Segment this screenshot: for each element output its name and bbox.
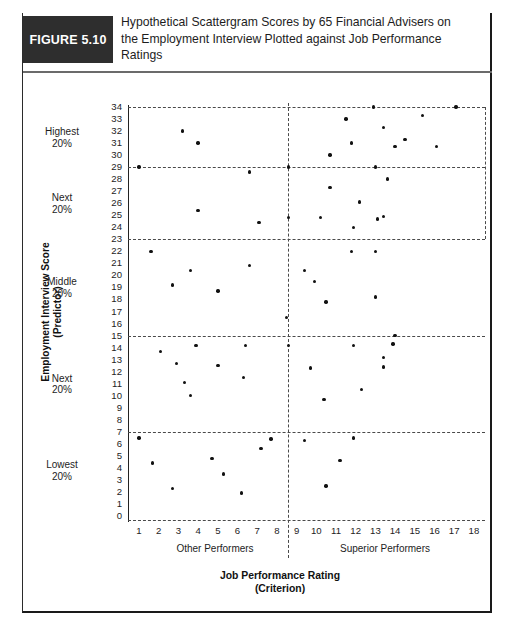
data-point bbox=[196, 209, 199, 212]
figure-title: Hypothetical Scattergram Scores by 65 Fi… bbox=[121, 14, 471, 64]
figure-header: FIGURE 5.10 Hypothetical Scattergram Sco… bbox=[23, 16, 470, 66]
band-label-5: Lowest20% bbox=[27, 459, 97, 482]
data-point bbox=[338, 459, 341, 462]
y-tick-label: 31 bbox=[100, 138, 122, 148]
y-tick-label: 3 bbox=[100, 475, 122, 485]
y-tick-label: 1 bbox=[100, 499, 122, 509]
y-tick-label: 8 bbox=[100, 415, 122, 425]
y-tick-label: 0 bbox=[100, 511, 122, 521]
x-tick-label: 12 bbox=[346, 525, 366, 536]
header-divider bbox=[23, 71, 492, 73]
y-tick-label: 16 bbox=[100, 319, 122, 329]
data-point bbox=[372, 105, 375, 108]
page-frame bbox=[22, 13, 492, 613]
data-point bbox=[324, 300, 327, 303]
y-tick-label: 6 bbox=[100, 439, 122, 449]
data-point bbox=[393, 334, 396, 337]
data-point bbox=[303, 439, 306, 442]
data-point bbox=[386, 177, 389, 180]
y-tick-label: 7 bbox=[100, 427, 122, 437]
band-label-line1: Lowest bbox=[27, 459, 97, 471]
y-tick-label: 19 bbox=[100, 282, 122, 292]
data-point bbox=[454, 105, 457, 108]
data-point bbox=[309, 366, 312, 369]
figure-number-badge: FIGURE 5.10 bbox=[23, 16, 113, 63]
data-point bbox=[137, 436, 140, 439]
band-label-line2: 20% bbox=[27, 288, 97, 300]
band-divider-line bbox=[128, 336, 485, 337]
plot-right-edge-line bbox=[485, 107, 486, 239]
data-point bbox=[328, 153, 331, 156]
band-divider-line bbox=[128, 432, 485, 433]
x-tick-label: 4 bbox=[188, 525, 208, 536]
data-point bbox=[382, 365, 385, 368]
band-label-2: Next20% bbox=[27, 192, 97, 215]
data-point bbox=[240, 491, 243, 494]
band-divider-line bbox=[128, 239, 485, 240]
data-point bbox=[149, 250, 152, 253]
y-tick-label: 5 bbox=[100, 451, 122, 461]
band-label-line2: 20% bbox=[27, 204, 97, 216]
y-tick-label: 11 bbox=[100, 379, 122, 389]
band-label-line2: 20% bbox=[27, 138, 97, 150]
data-point bbox=[194, 344, 197, 347]
y-tick-label: 12 bbox=[100, 367, 122, 377]
y-tick-label: 33 bbox=[100, 114, 122, 124]
data-point bbox=[322, 398, 325, 401]
band-label-line1: Highest bbox=[27, 126, 97, 138]
band-label-line1: Next bbox=[27, 373, 97, 385]
x-tick-label: 17 bbox=[444, 525, 464, 536]
data-point bbox=[210, 457, 213, 460]
data-point bbox=[181, 129, 184, 132]
data-point bbox=[352, 436, 355, 439]
y-tick-label: 28 bbox=[100, 174, 122, 184]
y-tick-label: 30 bbox=[100, 150, 122, 160]
x-tick-label: 11 bbox=[326, 525, 346, 536]
band-divider-line bbox=[128, 107, 485, 108]
band-label-1: Highest20% bbox=[27, 126, 97, 149]
x-tick-label: 10 bbox=[306, 525, 326, 536]
y-tick-label: 22 bbox=[100, 246, 122, 256]
y-tick-label: 26 bbox=[100, 198, 122, 208]
x-tick-label: 5 bbox=[208, 525, 228, 536]
data-point bbox=[269, 437, 272, 440]
data-point bbox=[358, 200, 361, 203]
x-tick-label: 15 bbox=[405, 525, 425, 536]
y-tick-label: 10 bbox=[100, 391, 122, 401]
x-tick-label: 13 bbox=[365, 525, 385, 536]
performance-split-line bbox=[288, 103, 289, 558]
data-point bbox=[344, 117, 347, 120]
data-point bbox=[391, 342, 394, 345]
data-point bbox=[374, 165, 377, 168]
band-label-line1: Next bbox=[27, 192, 97, 204]
y-tick-label: 2 bbox=[100, 487, 122, 497]
data-point bbox=[216, 289, 219, 292]
y-tick-label: 24 bbox=[100, 222, 122, 232]
data-point bbox=[374, 295, 377, 298]
x-tick-label: 14 bbox=[385, 525, 405, 536]
x-tick-label: 18 bbox=[464, 525, 484, 536]
band-divider-line bbox=[128, 167, 485, 168]
x-tick-label: 3 bbox=[168, 525, 188, 536]
data-point bbox=[216, 364, 219, 367]
x-tick-label: 8 bbox=[267, 525, 287, 536]
x-axis-title: Job Performance Rating (Criterion) bbox=[130, 570, 430, 595]
data-point bbox=[403, 138, 406, 141]
x-tick-label: 6 bbox=[228, 525, 248, 536]
data-point bbox=[248, 170, 251, 173]
data-point bbox=[382, 126, 385, 129]
data-point bbox=[257, 221, 260, 224]
y-tick-label: 32 bbox=[100, 126, 122, 136]
y-tick-label: 20 bbox=[100, 270, 122, 280]
data-point bbox=[175, 362, 178, 365]
data-point bbox=[196, 141, 199, 144]
data-point bbox=[382, 356, 385, 359]
y-tick-label: 18 bbox=[100, 294, 122, 304]
data-point bbox=[244, 344, 247, 347]
band-label-line1: Middle bbox=[27, 276, 97, 288]
data-point bbox=[382, 215, 385, 218]
band-label-3: Middle20% bbox=[27, 276, 97, 299]
y-tick-label: 4 bbox=[100, 463, 122, 473]
band-label-4: Next20% bbox=[27, 373, 97, 396]
band-label-line2: 20% bbox=[27, 384, 97, 396]
